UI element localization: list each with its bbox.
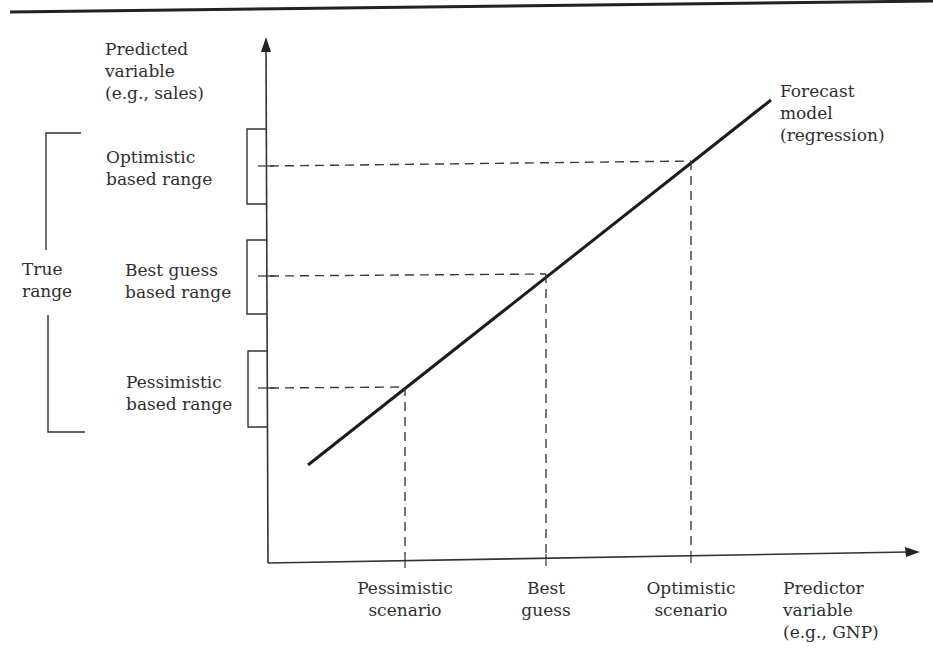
y-axis-label-line: (e.g., sales) <box>105 82 204 104</box>
x-axis-label-line: variable <box>783 599 879 621</box>
scenario-label-line: Best <box>496 577 596 599</box>
true-range-label-line: True <box>22 258 72 280</box>
forecast-label-line: Forecast <box>780 80 885 102</box>
x-axis-label: Predictor variable (e.g., GNP) <box>783 577 879 643</box>
range-bracket-pessimistic <box>248 351 268 427</box>
guide-pessimistic-h <box>270 387 405 388</box>
scenario-label-line: guess <box>496 599 596 621</box>
range-label-line: based range <box>125 281 231 303</box>
range-label-best-guess: Best guess based range <box>125 259 231 303</box>
scenario-label-line: Optimistic <box>631 577 751 599</box>
x-axis-label-line: Predictor <box>783 577 879 599</box>
scenario-label-line: Pessimistic <box>345 577 465 599</box>
scenario-label-best-guess: Best guess <box>496 577 596 621</box>
true-range-label: True range <box>22 258 72 302</box>
y-axis-label-line: Predicted <box>105 38 204 60</box>
forecast-model-line <box>308 100 771 465</box>
scenario-label-optimistic: Optimistic scenario <box>631 577 751 621</box>
range-bracket-best-guess <box>247 240 267 314</box>
y-axis-label-line: variable <box>105 60 204 82</box>
forecast-label-line: (regression) <box>780 124 885 146</box>
dashed-guides <box>270 161 691 556</box>
x-axis-label-line: (e.g., GNP) <box>783 621 879 643</box>
range-brackets <box>247 129 268 427</box>
true-range-label-line: range <box>22 280 72 302</box>
forecast-model-label: Forecast model (regression) <box>780 80 885 146</box>
scenario-label-line: scenario <box>631 599 751 621</box>
y-axis <box>261 37 271 563</box>
scenario-label-line: scenario <box>345 599 465 621</box>
range-label-line: based range <box>126 393 232 415</box>
range-label-line: Optimistic <box>106 146 212 168</box>
range-label-line: based range <box>106 168 212 190</box>
x-axis <box>268 547 920 568</box>
guide-best-guess-h <box>270 274 546 276</box>
range-label-pessimistic: Pessimistic based range <box>126 371 232 415</box>
scenario-label-pessimistic: Pessimistic scenario <box>345 577 465 621</box>
range-label-line: Best guess <box>125 259 231 281</box>
y-axis-arrowhead-icon <box>261 37 271 52</box>
range-label-optimistic: Optimistic based range <box>106 146 212 190</box>
forecast-label-line: model <box>780 102 885 124</box>
guide-optimistic-h <box>270 161 691 166</box>
header-rule <box>10 1 933 12</box>
x-axis-arrowhead-icon <box>905 547 920 557</box>
y-axis-label: Predicted variable (e.g., sales) <box>105 38 204 104</box>
range-label-line: Pessimistic <box>126 371 232 393</box>
